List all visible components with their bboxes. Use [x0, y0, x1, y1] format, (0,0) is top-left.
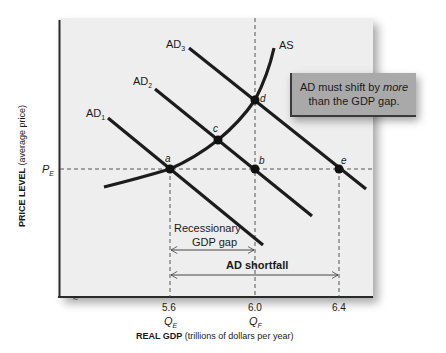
label-b: b	[259, 155, 265, 166]
qe-label: QE	[164, 315, 178, 329]
callout-line-1: AD must shift by more	[292, 80, 416, 94]
shortfall-label: AD shortfall	[226, 259, 288, 271]
point-d	[251, 96, 260, 105]
label-a: a	[165, 153, 171, 164]
recessionary-label-1: Recessionary	[174, 222, 241, 234]
label-c: c	[213, 123, 218, 134]
recessionary-label-2: GDP gap	[192, 236, 237, 248]
label-e: e	[341, 155, 347, 166]
y-axis-title: PRICE LEVEL (average price)	[17, 86, 27, 246]
x-axis-title: REAL GDP (trillions of dollars per year)	[136, 331, 293, 341]
callout-line-2: than the GDP gap.	[292, 94, 416, 108]
label-as: AS	[279, 39, 294, 51]
qf-label: QF	[249, 315, 263, 329]
axis-break-mark: ≈	[73, 293, 78, 303]
callout-box: AD must shift by more than the GDP gap.	[290, 73, 416, 117]
x-tick-5-6: 5.6	[162, 302, 176, 313]
point-c	[214, 136, 223, 145]
point-a	[166, 165, 175, 174]
x-tick-6-0: 6.0	[248, 302, 262, 313]
chart-svg: ≈ a b c d e AD1 AD2 AD3 AS PE Reces	[0, 0, 446, 353]
label-d: d	[260, 93, 266, 104]
x-tick-6-4: 6.4	[332, 302, 346, 313]
pe-label: PE	[42, 163, 54, 177]
